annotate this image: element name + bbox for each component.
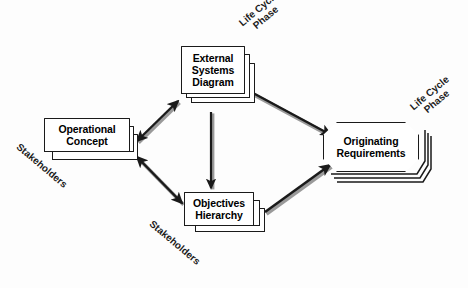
edge-oc-to-oh [137,157,184,205]
node-external-systems-diagram[interactable]: External Systems Diagram [181,46,261,114]
diagram-canvas: External Systems Diagram --> Objectives … [0,0,468,288]
node-body [181,46,245,94]
node-body [44,118,130,152]
edge-esd-to-oh [211,112,213,189]
edge-oc-to-esd [137,101,180,143]
node-body [184,192,254,226]
node-objectives-hierarchy[interactable]: Objectives Hierarchy [184,192,276,240]
edge-esd-to-or [253,93,333,137]
node-body [323,122,419,172]
node-operational-concept[interactable]: Operational Concept [44,118,140,162]
node-originating-requirements[interactable]: Originating Requirements [323,122,433,186]
